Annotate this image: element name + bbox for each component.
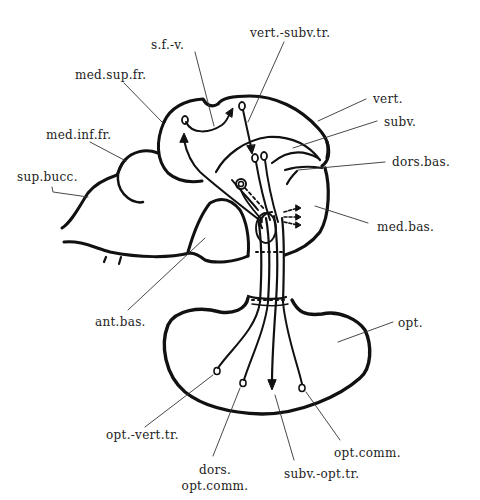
label-dors-opt-comm: dors. opt.comm.: [170, 462, 260, 494]
optic-lobe-outline: [164, 298, 369, 414]
brain-diagram: [0, 0, 480, 500]
label-dors-opt-comm-line1: dors.: [170, 462, 260, 478]
anterior-basal-lobe-outline: [188, 199, 249, 256]
median-inferior-frontal-lobe-outline: [118, 151, 158, 203]
label-subv: subv.: [384, 115, 416, 129]
label-med-sup-fr: med.sup.fr.: [75, 68, 146, 82]
label-vert: vert.: [373, 92, 403, 106]
label-dors-bas: dors.bas.: [392, 155, 450, 169]
label-ant-bas: ant.bas.: [95, 315, 146, 329]
basal-lobes-outline: [232, 168, 328, 255]
label-opt: opt.: [398, 316, 423, 330]
label-vert-subv-tr: vert.-subv.tr.: [250, 26, 330, 40]
label-med-bas: med.bas.: [377, 220, 434, 234]
optic-stalk: [248, 216, 288, 306]
label-dors-opt-comm-line2: opt.comm.: [170, 478, 260, 494]
label-subv-opt-tr: subv.-opt.tr.: [284, 467, 359, 481]
label-opt-comm: opt.comm.: [334, 446, 401, 460]
label-med-inf-fr: med.inf.fr.: [46, 128, 111, 142]
label-sup-bucc: sup.bucc.: [17, 170, 78, 184]
superior-buccal-lobe-outline: [62, 160, 248, 264]
label-opt-vert-tr: opt.-vert.tr.: [106, 428, 179, 442]
label-sfv: s.f.-v.: [151, 38, 184, 52]
